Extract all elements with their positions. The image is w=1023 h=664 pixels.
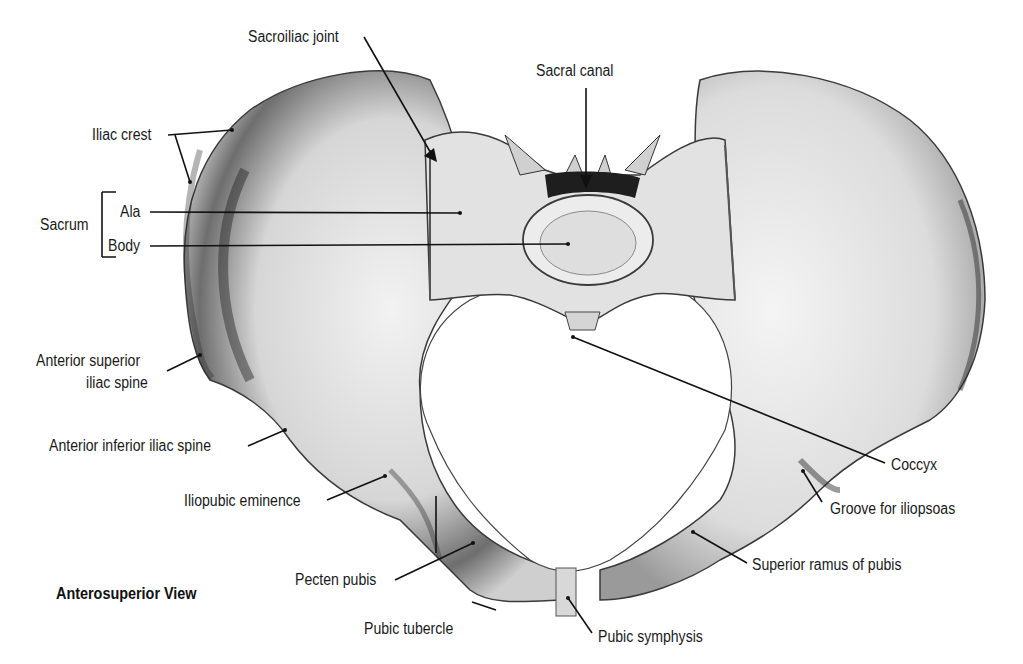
label-sacral-canal: Sacral canal [536, 62, 613, 80]
label-groove-iliopsoas: Groove for iliopsoas [830, 500, 955, 518]
label-superior-ramus: Superior ramus of pubis [752, 556, 901, 574]
label-iliopubic-eminence: Iliopubic eminence [184, 492, 301, 510]
label-sacrum: Sacrum [40, 216, 89, 234]
coccyx-bone [565, 312, 600, 330]
pubic-symphysis-bone [556, 568, 576, 616]
label-pubic-symphysis: Pubic symphysis [598, 628, 703, 646]
view-caption: Anterosuperior View [56, 585, 197, 603]
label-pubic-tubercle: Pubic tubercle [364, 620, 453, 638]
label-aiis: Anterior inferior iliac spine [49, 437, 211, 455]
label-sacroiliac-joint: Sacroiliac joint [248, 28, 339, 46]
label-asis-line1: Anterior superior [36, 352, 140, 370]
label-coccyx: Coccyx [891, 456, 937, 474]
label-ala: Ala [120, 203, 140, 221]
label-pecten-pubis: Pecten pubis [295, 571, 376, 589]
label-asis-line2: iliac spine [86, 374, 148, 392]
label-body: Body [108, 237, 140, 255]
label-iliac-crest: Iliac crest [92, 126, 151, 144]
